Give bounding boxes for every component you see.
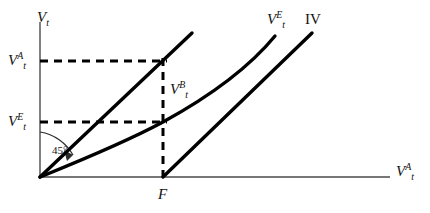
curve-label-vt-e: VEt xyxy=(267,12,285,27)
y-tick-label-lower: VEt xyxy=(8,114,26,129)
y-axis-title: Vt xyxy=(37,10,49,25)
angle-label-45: 45° xyxy=(52,145,67,156)
plot-canvas xyxy=(0,0,430,213)
curve-label-iv: IV xyxy=(305,12,321,27)
segment-label-vt-b: VBt xyxy=(170,82,188,97)
x-tick-label-f: F xyxy=(158,187,167,202)
curve-iv xyxy=(163,33,312,177)
curve-vt-e xyxy=(40,36,275,177)
economics-diagram-figure: Vt VAt VEt VBt VEt IV F VAt 45° xyxy=(0,0,430,213)
x-axis-title: VAt xyxy=(396,164,414,179)
y-tick-label-upper: VAt xyxy=(8,53,26,68)
